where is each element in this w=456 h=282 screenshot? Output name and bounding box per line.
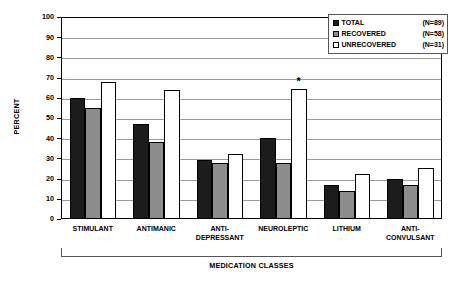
y-tick-mark	[57, 57, 61, 58]
y-tick-mark	[57, 17, 61, 18]
bar	[164, 90, 180, 219]
x-category-label: ANTI-CONVULSANT	[379, 225, 443, 242]
legend-swatch-icon	[333, 20, 339, 26]
x-category-label: ANTI-DEPRESSANT	[188, 225, 252, 242]
y-tick-label: 60	[28, 94, 54, 101]
legend-label: TOTAL	[342, 19, 365, 26]
bar	[276, 163, 292, 219]
x-category-label: NEUROLEPTIC	[252, 225, 316, 234]
bar	[403, 185, 419, 219]
y-tick-label: 40	[28, 135, 54, 142]
legend-swatch-icon	[333, 42, 339, 48]
legend-item: UNRECOVERED(N=31)	[333, 39, 444, 50]
y-tick-mark	[57, 219, 61, 220]
x-category-label: ANTIMANIC	[125, 225, 189, 234]
bar	[339, 191, 355, 219]
bar	[355, 174, 371, 219]
x-category-label: LITHIUM	[315, 225, 379, 234]
bar	[387, 179, 403, 219]
significance-marker: *	[292, 76, 306, 87]
legend-sample-size: (N=31)	[418, 41, 444, 48]
bar	[291, 89, 307, 219]
x-category-label: STIMULANT	[61, 225, 125, 234]
legend: TOTAL(N=89)RECOVERED(N=58)UNRECOVERED(N=…	[328, 14, 448, 54]
y-tick-label: 90	[28, 34, 54, 41]
bar	[324, 185, 340, 219]
y-tick-mark	[57, 179, 61, 180]
legend-label: UNRECOVERED	[342, 41, 396, 48]
bar	[133, 124, 149, 219]
y-tick-mark	[57, 37, 61, 38]
y-tick-mark	[57, 199, 61, 200]
y-tick-label: 100	[28, 13, 54, 20]
y-tick-label: 50	[28, 114, 54, 121]
y-tick-mark	[57, 78, 61, 79]
y-tick-label: 20	[28, 175, 54, 182]
bar	[418, 168, 434, 220]
y-tick-label: 0	[28, 215, 54, 222]
y-tick-label: 30	[28, 155, 54, 162]
y-tick-mark	[57, 98, 61, 99]
y-tick-label: 80	[28, 54, 54, 61]
bar	[228, 154, 244, 219]
legend-sample-size: (N=58)	[418, 30, 444, 37]
bar	[85, 108, 101, 219]
y-axis-title: PERCENT	[12, 82, 21, 152]
bar	[101, 82, 117, 219]
legend-item: TOTAL(N=89)	[333, 17, 444, 28]
bar	[70, 98, 86, 219]
bar	[149, 142, 165, 219]
legend-sample-size: (N=89)	[418, 19, 444, 26]
legend-label: RECOVERED	[342, 30, 386, 37]
x-axis-bracket	[61, 248, 442, 257]
legend-swatch-icon	[333, 31, 339, 37]
bar	[212, 163, 228, 219]
x-axis-title: MEDICATION CLASSES	[61, 261, 442, 270]
legend-item: RECOVERED(N=58)	[333, 28, 444, 39]
y-tick-mark	[57, 158, 61, 159]
y-tick-label: 70	[28, 74, 54, 81]
y-tick-label: 10	[28, 195, 54, 202]
bar	[197, 160, 213, 219]
y-tick-mark	[57, 138, 61, 139]
bar-chart: PERCENT * 1009080706050403020100 STIMULA…	[0, 0, 456, 282]
y-tick-mark	[57, 118, 61, 119]
bar	[260, 138, 276, 219]
